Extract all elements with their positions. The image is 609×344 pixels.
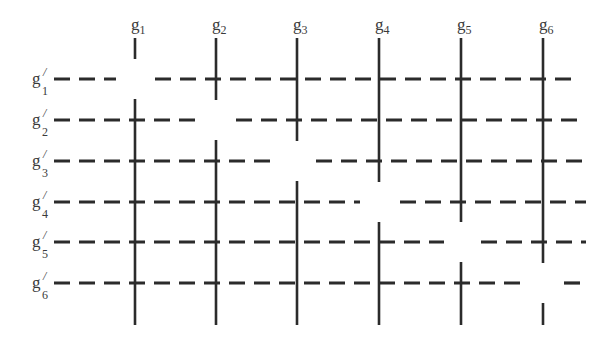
column-label-g3: g3 (293, 15, 308, 37)
column-label-subscript: 3 (302, 23, 308, 37)
column-label-subscript: 6 (548, 23, 554, 37)
column-label-g1: g1 (131, 15, 146, 37)
column-label-g6: g6 (539, 15, 554, 37)
row-label-prime: / (42, 269, 48, 283)
column-label-subscript: 2 (221, 23, 227, 37)
row-label-subscript: 2 (42, 125, 48, 139)
row-label-prime: / (42, 147, 48, 161)
row-label-g'5: g/5 (32, 228, 48, 261)
row-label-g'6: g/6 (32, 269, 48, 302)
column-labels: g1g2g3g4g5g6 (131, 15, 554, 37)
row-labels: g/1g/2g/3g/4g/5g/6 (32, 65, 48, 302)
column-label-subscript: 5 (466, 23, 472, 37)
row-label-prime: / (42, 65, 48, 79)
row-label-g'4: g/4 (32, 188, 48, 221)
row-label-subscript: 6 (42, 288, 48, 302)
row-label-base: g (32, 232, 41, 251)
column-label-g4: g4 (375, 15, 390, 37)
row-label-base: g (32, 69, 41, 88)
row-label-g'2: g/2 (32, 106, 48, 139)
row-label-base: g (32, 110, 41, 129)
column-label-subscript: 1 (140, 23, 146, 37)
grid-diagram: g1g2g3g4g5g6 g/1g/2g/3g/4g/5g/6 (0, 0, 609, 344)
row-label-subscript: 3 (42, 166, 48, 180)
row-label-base: g (32, 273, 41, 292)
column-label-g2: g2 (212, 15, 227, 37)
row-label-prime: / (42, 106, 48, 120)
column-label-g5: g5 (457, 15, 472, 37)
row-label-subscript: 5 (42, 247, 48, 261)
row-label-prime: / (42, 188, 48, 202)
row-label-subscript: 1 (42, 84, 48, 98)
row-label-g'1: g/1 (32, 65, 48, 98)
row-label-base: g (32, 192, 41, 211)
row-label-base: g (32, 151, 41, 170)
row-label-prime: / (42, 228, 48, 242)
row-label-subscript: 4 (42, 207, 48, 221)
column-label-subscript: 4 (384, 23, 390, 37)
row-label-g'3: g/3 (32, 147, 48, 180)
